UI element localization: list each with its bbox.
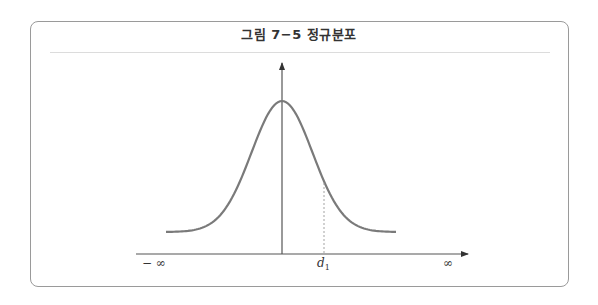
d1-label: d1: [317, 256, 330, 272]
d1-main: d: [317, 256, 325, 270]
neg-infinity-label: − ∞: [142, 256, 166, 270]
pos-infinity-label: ∞: [443, 256, 453, 270]
bell-curve: [166, 101, 396, 232]
d1-subscript: 1: [325, 263, 330, 272]
normal-distribution-plot: [0, 0, 598, 305]
